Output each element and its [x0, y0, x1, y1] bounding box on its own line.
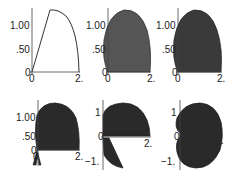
panel-6-ytick-m1: −1.	[161, 156, 175, 167]
panel-4: 1.00 .50 0 0 2.	[16, 100, 83, 166]
panel-6-ytick-0: 0	[174, 131, 180, 142]
panel-6: 1 0 −1. .	[161, 100, 224, 170]
panel-2-ytick-05: .50	[92, 44, 106, 55]
panel-1-ytick-1: 1.00	[10, 20, 30, 31]
panel-3-ytick-1: 1.00	[156, 20, 176, 31]
panel-4-ytick-05: .50	[22, 131, 36, 142]
panel-5-lower-wedge	[103, 138, 123, 168]
panel-5-xtick-2: 2.	[144, 138, 152, 149]
panel-5-ytick-0: 0	[98, 131, 104, 142]
panel-2-xtick-2: 2.	[147, 73, 155, 84]
panel-2-xtick-0: 0	[105, 73, 111, 84]
panel-3-ytick-05: .50	[162, 44, 176, 55]
panel-5-upper-area	[103, 103, 150, 136]
panel-6-xtick-2: .	[221, 135, 224, 146]
panel-3: 1.00 .50 0 0 2.	[156, 8, 225, 84]
panel-2-area	[104, 10, 151, 72]
panel-4-xtick-2: 2.	[75, 151, 83, 162]
panel-1-curve	[32, 10, 79, 72]
panel-1-xtick-2: 2.	[75, 73, 83, 84]
panel-5-ytick-m1: −1.	[85, 156, 99, 167]
panel-5: 1 0 −1. 2.	[85, 100, 152, 170]
panel-1-ytick-05: .50	[16, 44, 30, 55]
panel-4-ytick-1: 1.00	[16, 112, 36, 123]
panel-2-ytick-1: 1.00	[86, 20, 106, 31]
panel-3-xtick-0: 0	[175, 73, 181, 84]
panel-1: 1.00 .50 0 0 2.	[10, 8, 83, 84]
panel-4-area	[36, 103, 80, 150]
panel-1-xtick-0: 0	[29, 73, 35, 84]
chart-grid: 1.00 .50 0 0 2. 1.00 .50 0 0 2. 1.00 .50…	[0, 0, 235, 177]
panel-3-xtick-2: 2.	[217, 73, 225, 84]
panel-2: 1.00 .50 0 0 2.	[86, 8, 155, 84]
panel-6-ytick-1: 1	[171, 107, 177, 118]
panel-6-area	[176, 103, 222, 168]
panel-3-area	[174, 10, 222, 72]
panel-5-ytick-1: 1	[95, 107, 101, 118]
panel-4-xtick-0: 0	[33, 151, 39, 162]
